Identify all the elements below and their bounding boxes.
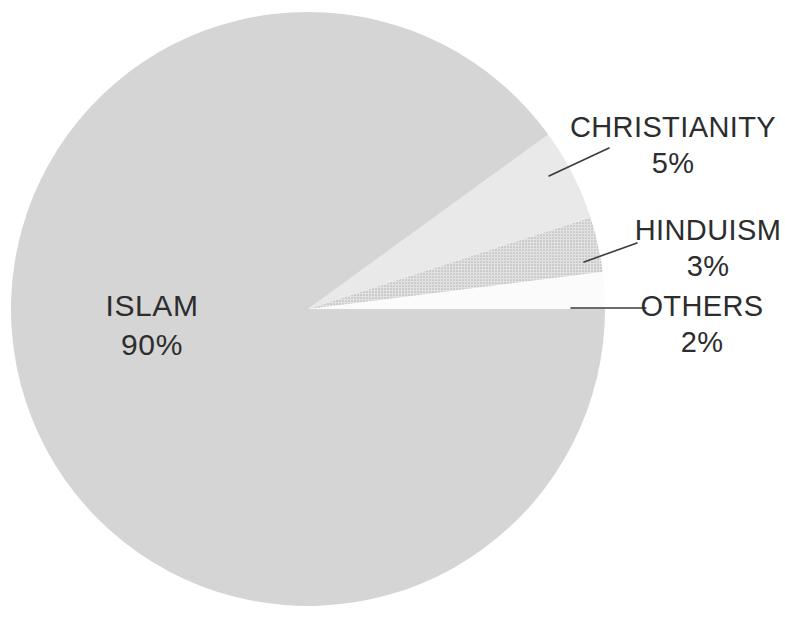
slice-value-islam: 90%	[121, 328, 183, 361]
pie-chart-canvas: ISLAM90%CHRISTIANITY5%HINDUISM3%OTHERS2%	[0, 0, 785, 623]
slice-label-islam: ISLAM	[105, 289, 198, 322]
slice-value-christianity: 5%	[652, 147, 695, 179]
slice-label-christianity: CHRISTIANITY	[570, 111, 776, 143]
slice-value-hinduism: 3%	[687, 250, 730, 282]
slice-label-hinduism: HINDUISM	[635, 214, 782, 246]
slice-value-others: 2%	[681, 326, 724, 358]
slice-label-others: OTHERS	[640, 290, 763, 322]
pie-slices-group	[11, 12, 605, 606]
pie-chart-figure: ISLAM90%CHRISTIANITY5%HINDUISM3%OTHERS2%	[0, 0, 785, 623]
